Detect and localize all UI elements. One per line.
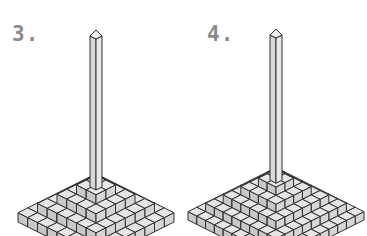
column-right-face [276,35,282,183]
pyramid-figure-4 [0,0,367,236]
column-left-face [270,35,276,183]
